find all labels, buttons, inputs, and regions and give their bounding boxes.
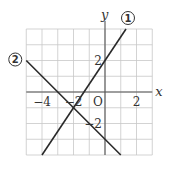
x-tick-label: −2 — [65, 95, 83, 109]
y-tick-label: 2 — [94, 54, 102, 68]
series-label-text: 2 — [12, 54, 19, 65]
series-label-text: 1 — [125, 13, 132, 24]
coordinate-graph: −4−222−2 x y O 12 — [0, 0, 170, 172]
y-axis-label: y — [100, 7, 109, 22]
series-label-2: 2 — [9, 53, 22, 66]
x-tick-label: −4 — [33, 95, 51, 109]
y-tick-label: −2 — [84, 117, 102, 131]
x-tick-label: 2 — [133, 95, 141, 109]
series-labels: 12 — [9, 12, 135, 67]
origin-label: O — [93, 95, 103, 109]
x-axis-label: x — [155, 84, 163, 99]
series-label-1: 1 — [121, 12, 134, 25]
